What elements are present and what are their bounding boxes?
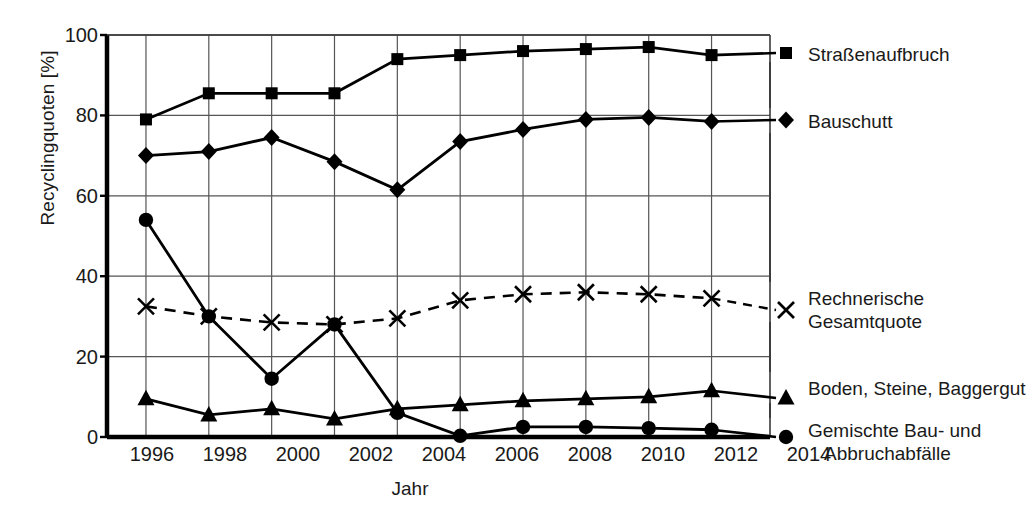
legend-label-gesamtquote-line1[interactable]: Rechnerische xyxy=(808,288,924,310)
legend-label-gemischte-line1[interactable]: Gemischte Bau- und xyxy=(808,420,981,442)
legend-label-gemischte-line2[interactable]: Abbruchabfälle xyxy=(824,443,951,465)
legend-label-boden[interactable]: Boden, Steine, Baggergut xyxy=(808,378,1026,400)
legend-label-gesamtquote-line2[interactable]: Gesamtquote xyxy=(808,311,922,333)
legend-label-strassenaufbruch[interactable]: Straßenaufbruch xyxy=(808,44,950,66)
legend-label-bauschutt[interactable]: Bauschutt xyxy=(808,111,893,133)
